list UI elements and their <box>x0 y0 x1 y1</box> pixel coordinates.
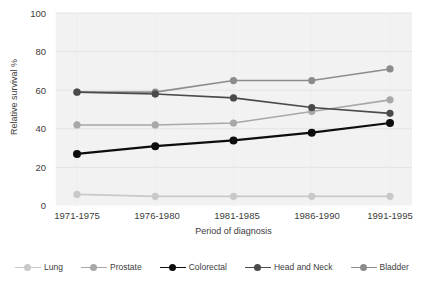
chart-legend: Lung Prostate Colorectal Head and Neck B… <box>0 258 424 276</box>
relative-survival-line-chart: 100 80 60 40 20 0 Relative survival % 19… <box>0 0 424 282</box>
legend-marker-icon <box>15 263 41 272</box>
legend-marker-icon <box>160 263 186 272</box>
legend-entry-colorectal[interactable]: Colorectal <box>160 262 227 272</box>
legend-label: Lung <box>44 262 63 272</box>
legend-label: Prostate <box>110 262 142 272</box>
legend-label: Head and Neck <box>274 262 333 272</box>
legend-label: Bladder <box>380 262 409 272</box>
legend-entry-head-and-neck[interactable]: Head and Neck <box>245 262 333 272</box>
legend-entry-lung[interactable]: Lung <box>15 262 63 272</box>
legend-entry-bladder[interactable]: Bladder <box>351 262 409 272</box>
legend-marker-icon <box>245 263 271 272</box>
legend-marker-icon <box>351 263 377 272</box>
legend-entry-prostate[interactable]: Prostate <box>81 262 142 272</box>
legend-label: Colorectal <box>189 262 227 272</box>
legend-marker-icon <box>81 263 107 272</box>
series-plot-layer <box>0 0 424 282</box>
